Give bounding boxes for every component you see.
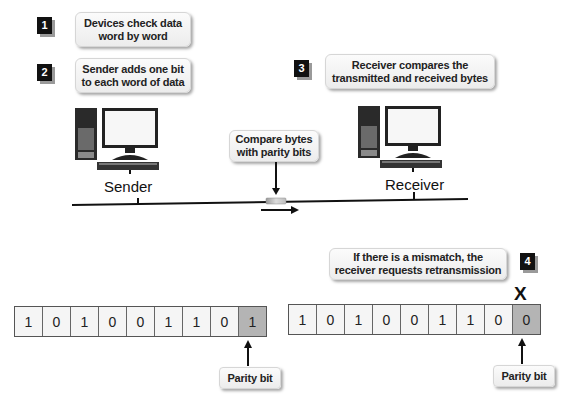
received-bit-6: 1 [429, 305, 457, 334]
sent-bit-2: 0 [43, 307, 71, 336]
data-packet-icon [266, 198, 286, 204]
received-bit-1: 1 [289, 305, 317, 334]
network-diagram [0, 0, 570, 230]
received-bit-8: 0 [485, 305, 513, 334]
received-parity-arrow [521, 344, 523, 364]
sent-bit-6: 1 [155, 307, 183, 336]
sent-parity-label: Parity bit [219, 367, 281, 389]
mismatch-x-icon: X [514, 283, 527, 305]
received-bit-3: 1 [345, 305, 373, 334]
sent-bit-1: 1 [15, 307, 43, 336]
received-parity-label: Parity bit [493, 365, 555, 387]
sent-word: 1 0 1 0 0 1 1 0 1 [14, 306, 267, 337]
step-4-callout: If there is a mismatch, the receiver req… [329, 248, 507, 280]
sent-bit-4: 0 [99, 307, 127, 336]
step-4-badge: 4 [520, 253, 535, 270]
received-word: 1 0 1 0 0 1 1 0 0 [288, 304, 541, 335]
received-bit-2: 0 [317, 305, 345, 334]
received-bit-7: 1 [457, 305, 485, 334]
sent-parity-arrow [247, 346, 249, 366]
step-4-line-2: receiver requests retransmission [335, 264, 502, 277]
received-bit-4: 0 [373, 305, 401, 334]
sent-bit-3: 1 [71, 307, 99, 336]
sent-bit-5: 0 [127, 307, 155, 336]
step-4-line-1: If there is a mismatch, the [335, 251, 502, 264]
sent-parity-bit: 1 [239, 307, 266, 336]
sent-bit-7: 1 [183, 307, 211, 336]
received-bit-5: 0 [401, 305, 429, 334]
sent-bit-8: 0 [211, 307, 239, 336]
received-parity-bit: 0 [513, 305, 540, 334]
